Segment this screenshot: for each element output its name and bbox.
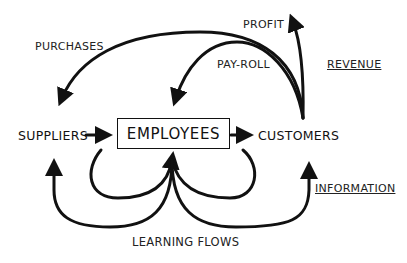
- information-label: INFORMATION: [315, 183, 395, 194]
- customers-node: CUSTOMERS: [258, 130, 339, 143]
- arrow-learning-to-customers: [172, 160, 309, 227]
- arrow-learning-loop-right: [172, 150, 255, 198]
- suppliers-node: SUPPLIERS: [18, 130, 88, 143]
- employees-label: EMPLOYEES: [127, 125, 220, 143]
- payroll-label: PAY-ROLL: [217, 59, 270, 70]
- purchases-label: PURCHASES: [35, 41, 104, 52]
- arrow-payroll: [176, 42, 303, 118]
- arrow-learning-to-suppliers: [54, 160, 172, 227]
- learning-flows-label: LEARNING FLOWS: [132, 237, 239, 249]
- revenue-label: REVENUE: [327, 59, 381, 70]
- employees-node: EMPLOYEES: [117, 118, 230, 149]
- profit-label: PROFIT: [243, 19, 284, 30]
- arrow-learning-loop-left: [91, 150, 172, 198]
